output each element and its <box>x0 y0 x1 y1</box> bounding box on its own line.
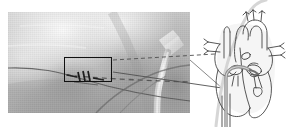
left-common-carotid <box>250 10 256 20</box>
right-pulmonary-vein-upper <box>204 39 220 45</box>
left-subclavian <box>259 11 265 21</box>
region-of-interest-box[interactable] <box>64 57 112 82</box>
heart-anatomy-diagram <box>196 0 286 127</box>
medical-figure <box>0 0 286 127</box>
